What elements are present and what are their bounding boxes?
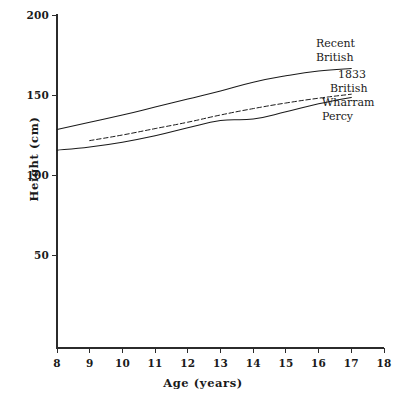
y-tick-label-50: 50 bbox=[8, 249, 49, 261]
x-tick-label-18: 18 bbox=[376, 357, 391, 369]
series-line-1833-british bbox=[90, 94, 352, 140]
x-tick-label-8: 8 bbox=[53, 357, 61, 369]
x-axis-title: Age (years) bbox=[0, 376, 406, 390]
y-axis-title: Height (cm) bbox=[27, 99, 41, 219]
height-by-age-chart: 50100150200 89101112131415161718 Height … bbox=[0, 0, 406, 406]
x-tick-label-16: 16 bbox=[311, 357, 326, 369]
x-tick-label-11: 11 bbox=[148, 357, 163, 369]
series-label-1833-british-line2: British bbox=[330, 82, 368, 96]
series-label-1833-british-line1: 1833 bbox=[338, 68, 368, 82]
x-tick-label-14: 14 bbox=[246, 357, 261, 369]
x-tick-label-10: 10 bbox=[115, 357, 130, 369]
y-axis-ticks bbox=[52, 15, 57, 255]
series-label-1833-british: 1833 British bbox=[330, 68, 368, 95]
series-label-wharram-percy: Wharram Percy bbox=[322, 96, 374, 123]
series-line-wharram-percy bbox=[57, 97, 351, 150]
axis-lines bbox=[57, 14, 384, 348]
x-tick-label-9: 9 bbox=[86, 357, 94, 369]
series-label-recent-british: Recent British bbox=[316, 37, 355, 64]
x-tick-label-12: 12 bbox=[180, 357, 195, 369]
axes-group bbox=[52, 14, 384, 353]
series-label-recent-british-line1: Recent bbox=[316, 37, 355, 51]
x-tick-label-17: 17 bbox=[344, 357, 359, 369]
y-tick-label-200: 200 bbox=[8, 9, 49, 21]
series-label-wharram-percy-line1: Wharram bbox=[322, 96, 374, 110]
x-tick-label-15: 15 bbox=[278, 357, 293, 369]
series-label-recent-british-line2: British bbox=[316, 51, 355, 65]
series-label-wharram-percy-line2: Percy bbox=[322, 110, 374, 124]
x-tick-label-13: 13 bbox=[213, 357, 228, 369]
series-line-recent-british bbox=[57, 69, 351, 130]
x-axis-ticks bbox=[57, 348, 384, 353]
data-series-group bbox=[57, 69, 351, 151]
